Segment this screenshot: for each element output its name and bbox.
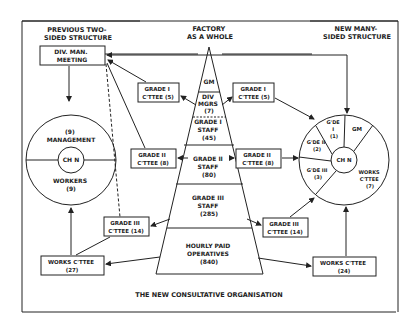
right-chn-label: CH N <box>336 157 352 163</box>
right-grade3-committee: GRADE III C'TTEE (14) <box>263 218 308 237</box>
left-works-committee: WORKS C'TTEE (27) <box>41 256 104 275</box>
diagram-title: THE NEW CONSULTATIVE ORGANISATION <box>135 291 282 299</box>
consultative-organisation-diagram: PREVIOUS TWO- SIDED STRUCTURE FACTORY AS… <box>0 0 418 330</box>
right-grade1-committee: GRADE I C'TTEE (5) <box>233 83 274 102</box>
right-header: NEW MANY- SIDED STRUCTURE <box>323 25 391 41</box>
left-grade1-committee: GRADE I C'TTEE (5) <box>138 83 179 102</box>
left-div-man-meeting: DIV. MAN. MEETING <box>40 46 105 65</box>
right-many-sided-circle: CH N G'DE I (1) GM G'DE II (2) G'DE III … <box>299 115 389 205</box>
left-header: PREVIOUS TWO- SIDED STRUCTURE <box>44 26 112 42</box>
center-header: FACTORY AS A WHOLE <box>187 25 233 41</box>
right-grade2-committee: GRADE II C'TTEE (8) <box>236 149 281 168</box>
right-works-committee: WORKS C'TTEE (24) <box>313 257 376 276</box>
left-grade3-committee: GRADE III C'TTEE (14) <box>104 217 149 236</box>
level-gm: GM <box>204 78 215 85</box>
left-two-sided-circle: (9) MANAGEMENT CH N WORKERS (9) <box>26 115 116 205</box>
left-grade2-committee: GRADE II C'TTEE (8) <box>131 149 176 168</box>
left-chn-label: CH N <box>63 156 80 163</box>
gm-segment-label: GM <box>352 126 362 132</box>
svg-text:DIV. MAN. MEETING: DIV. MAN. MEETING <box>54 48 89 63</box>
